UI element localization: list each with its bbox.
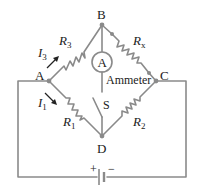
r1-label: R1 <box>62 114 75 131</box>
r3-label: R3 <box>58 33 72 50</box>
resistor-r1-icon <box>49 81 102 136</box>
i1-label: I1 <box>37 95 47 112</box>
ammeter-symbol: A <box>98 55 108 70</box>
ammeter-label: Ammeter <box>106 73 151 87</box>
node-d-label: D <box>97 141 106 156</box>
current-i3-arrow-icon <box>47 56 59 68</box>
wheatstone-bridge-diagram: + − A B A C D R3 Rx R1 R2 Amm <box>0 0 198 195</box>
node-b-label: B <box>97 7 106 22</box>
resistor-r3-icon <box>49 25 102 81</box>
battery-icon <box>99 169 104 185</box>
node-b-dot <box>100 23 105 28</box>
outer-wire-left <box>18 81 97 177</box>
node-c-dot <box>154 79 159 84</box>
resistor-r2-icon <box>102 81 156 136</box>
r2-label: R2 <box>132 114 145 131</box>
node-c-label: C <box>160 68 169 83</box>
switch-icon[interactable] <box>93 98 102 117</box>
battery-minus-label: − <box>108 162 115 176</box>
rx-label: Rx <box>132 33 146 50</box>
node-d-dot <box>100 134 105 139</box>
i3-label: I3 <box>37 45 47 62</box>
switch-label: S <box>103 98 110 112</box>
outer-wire-right <box>107 81 186 177</box>
battery-plus-label: + <box>90 162 97 176</box>
node-a-dot <box>47 79 52 84</box>
node-a-label: A <box>35 68 45 83</box>
